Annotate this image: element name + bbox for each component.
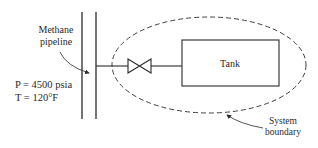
boundary-pointer-arrow — [227, 115, 263, 128]
pipeline-label-line1: Methane — [39, 24, 75, 35]
pipeline-pointer-arrow — [60, 52, 89, 73]
temperature-label: T = 120°F — [15, 92, 58, 103]
boundary-label-line1: System — [269, 116, 298, 126]
pressure-label: P = 4500 psia — [15, 79, 73, 90]
pipeline-label-line2: pipeline — [40, 36, 73, 47]
tank-label: Tank — [220, 58, 240, 69]
diagram-canvas: Methane pipeline P = 4500 psia T = 120°F… — [0, 0, 318, 148]
valve-icon — [128, 59, 151, 73]
boundary-label-line2: boundary — [265, 127, 301, 137]
